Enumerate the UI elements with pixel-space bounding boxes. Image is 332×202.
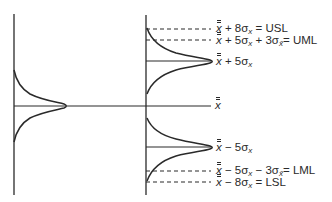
upper-mean-term: + 5σ — [225, 55, 248, 67]
usl-label-term: + 8σ — [225, 22, 248, 34]
lml-label-mid: − 3σ — [252, 164, 279, 176]
center-line-label: x — [215, 100, 221, 112]
upper-mean-label: x + 5σx — [216, 56, 252, 69]
sigma-subscript: x — [248, 146, 252, 155]
lsl-label-suffix: = LSL — [252, 176, 286, 188]
lml-label-suffix: = LML — [283, 164, 315, 176]
uml-label-suffix: = UML — [283, 34, 317, 46]
grand-mean-symbol: x — [216, 142, 222, 154]
lsl-label-term: − 8σ — [225, 176, 248, 188]
uml-label-mid: + 3σ — [252, 34, 279, 46]
lml-label-term: − 5σ — [225, 164, 248, 176]
grand-mean-symbol: x — [216, 56, 222, 68]
grand-mean-symbol: x — [216, 177, 222, 189]
lower-mean-term: − 5σ — [225, 141, 248, 153]
usl-label-suffix: = USL — [252, 22, 287, 34]
lower-mean-label: x − 5σx — [216, 142, 252, 155]
sigma-subscript: x — [248, 60, 252, 69]
uml-label: x + 5σx + 3σx̄= UML — [216, 35, 317, 48]
lsl-label: x − 8σx = LSL — [216, 177, 286, 190]
grand-mean-symbol: x — [215, 100, 221, 112]
uml-label-term: + 5σ — [225, 34, 248, 46]
grand-mean-symbol: x — [216, 35, 222, 47]
